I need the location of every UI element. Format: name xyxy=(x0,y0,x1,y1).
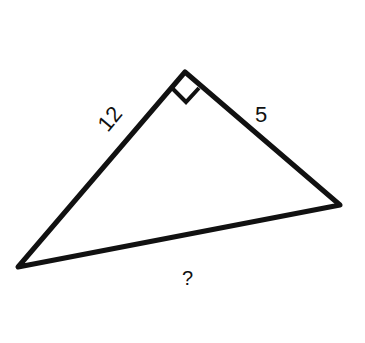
right-angle-marker xyxy=(172,88,199,102)
right-leg-label: 5 xyxy=(255,104,267,126)
diagram-canvas: 12 5 ? xyxy=(0,0,365,343)
hypotenuse-label: ? xyxy=(182,268,193,288)
triangle-figure xyxy=(0,0,365,343)
triangle-outline xyxy=(18,72,340,267)
